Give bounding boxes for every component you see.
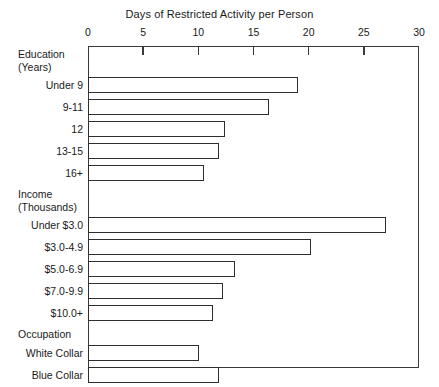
bar-13-15 bbox=[88, 143, 219, 159]
bar-white-collar bbox=[88, 345, 199, 361]
x-tick-label-0: 0 bbox=[85, 26, 91, 38]
group-label-education: Education bbox=[18, 48, 65, 60]
bar-9-11 bbox=[88, 99, 269, 115]
group-unit-income: (Thousands) bbox=[18, 201, 77, 213]
bar-row bbox=[88, 283, 419, 299]
category-label--5-0-6-9: $5.0-6.9 bbox=[0, 263, 83, 275]
category-label-white-collar: White Collar bbox=[0, 347, 83, 359]
bar-row bbox=[88, 143, 419, 159]
bar-12 bbox=[88, 121, 225, 137]
bar-blue-collar bbox=[88, 367, 219, 383]
x-tick-label-5: 5 bbox=[140, 26, 146, 38]
x-tick-10 bbox=[198, 46, 199, 55]
x-tick-label-10: 10 bbox=[192, 26, 204, 38]
group-label-occupation: Occupation bbox=[18, 328, 71, 340]
bar-16- bbox=[88, 165, 204, 181]
category-label-blue-collar: Blue Collar bbox=[0, 369, 83, 381]
x-axis-ticks: 051015202530 bbox=[88, 46, 419, 56]
x-tick-20 bbox=[308, 46, 309, 55]
chart-container: Days of Restricted Activity per Person 0… bbox=[0, 0, 439, 387]
chart-title: Days of Restricted Activity per Person bbox=[0, 8, 439, 20]
bar-row bbox=[88, 77, 419, 93]
category-label-16-: 16+ bbox=[0, 167, 83, 179]
group-label-income: Income bbox=[18, 188, 52, 200]
bar-row bbox=[88, 239, 419, 255]
bar--10-0- bbox=[88, 305, 213, 321]
category-label-9-11: 9-11 bbox=[0, 101, 83, 113]
category-label-under-9: Under 9 bbox=[0, 79, 83, 91]
bar-row bbox=[88, 345, 419, 361]
x-tick-label-30: 30 bbox=[413, 26, 425, 38]
x-tick-15 bbox=[253, 46, 254, 55]
x-tick-label-25: 25 bbox=[358, 26, 370, 38]
bar--5-0-6-9 bbox=[88, 261, 235, 277]
category-label--10-0-: $10.0+ bbox=[0, 307, 83, 319]
x-tick-label-20: 20 bbox=[303, 26, 315, 38]
bar--3-0-4-9 bbox=[88, 239, 311, 255]
x-tick-label-15: 15 bbox=[248, 26, 260, 38]
bar-row bbox=[88, 99, 419, 115]
category-label-13-15: 13-15 bbox=[0, 145, 83, 157]
bar-row bbox=[88, 261, 419, 277]
bar-under-3-0 bbox=[88, 217, 386, 233]
category-label--7-0-9-9: $7.0-9.9 bbox=[0, 285, 83, 297]
bar-row bbox=[88, 121, 419, 137]
bar-row bbox=[88, 367, 419, 383]
x-tick-25 bbox=[363, 46, 364, 55]
group-unit-education: (Years) bbox=[18, 61, 51, 73]
category-label-under-3-0: Under $3.0 bbox=[0, 219, 83, 231]
bar-row bbox=[88, 305, 419, 321]
bar-under-9 bbox=[88, 77, 298, 93]
bar--7-0-9-9 bbox=[88, 283, 223, 299]
bar-row bbox=[88, 217, 419, 233]
category-label--3-0-4-9: $3.0-4.9 bbox=[0, 241, 83, 253]
category-label-12: 12 bbox=[0, 123, 83, 135]
bar-row bbox=[88, 165, 419, 181]
x-tick-5 bbox=[142, 46, 143, 55]
